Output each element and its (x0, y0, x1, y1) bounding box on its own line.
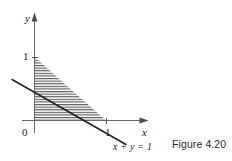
figure-container: y x 1 0 1 x + y = 1 Figure 4.20 (0, 0, 232, 161)
y-axis-arrowhead (32, 13, 38, 22)
x-axis-tick-label-1: 1 (105, 127, 111, 138)
figure-caption: Figure 4.20 (172, 139, 226, 150)
shaded-region (35, 57, 107, 121)
y-axis-tick-label-1: 1 (23, 51, 29, 62)
x-axis-label: x (142, 127, 147, 138)
x-axis-arrowhead (140, 118, 149, 124)
line-equation-label: x + y = 1 (113, 142, 152, 152)
y-axis-label: y (25, 13, 30, 24)
origin-label: 0 (22, 127, 28, 138)
plot-area (0, 0, 232, 161)
